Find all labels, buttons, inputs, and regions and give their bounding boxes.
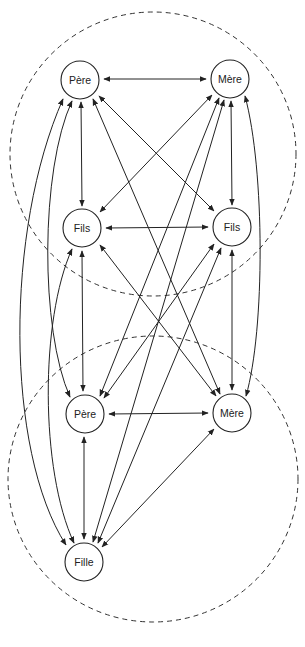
edge-mere2-fille bbox=[102, 429, 214, 547]
edge-fils1-fille bbox=[48, 249, 74, 543]
node-fils-right: Fils bbox=[213, 208, 251, 246]
family-relations-diagram: Père Mère Fils Fils Père Mère Fille bbox=[0, 0, 305, 647]
edge-fils1-mere2 bbox=[100, 245, 216, 396]
edge-fils1-fils2 bbox=[106, 227, 208, 228]
edge-fils2-fille bbox=[98, 248, 221, 543]
nodes: Père Mère Fils Fils Père Mère Fille bbox=[61, 60, 251, 581]
node-label: Fils bbox=[224, 221, 240, 233]
edge-pere1-fils1 bbox=[81, 102, 82, 206]
node-label: Père bbox=[69, 74, 91, 86]
edge-fils2-pere2 bbox=[104, 244, 214, 398]
edge-pere1-fille bbox=[20, 99, 66, 545]
edges bbox=[20, 79, 260, 547]
node-pere-top: Père bbox=[61, 61, 99, 99]
node-label: Fille bbox=[74, 556, 93, 568]
node-mere-top: Mère bbox=[211, 60, 249, 98]
edge-mere1-fils2 bbox=[231, 101, 232, 205]
edge-mere1-mere2 bbox=[245, 96, 260, 396]
edge-fils1-pere2 bbox=[82, 251, 83, 391]
node-label: Père bbox=[74, 408, 96, 420]
group-boundary-origin-family bbox=[10, 12, 296, 296]
node-label: Fils bbox=[74, 222, 90, 234]
node-fils-left: Fils bbox=[63, 209, 101, 247]
node-mere-bottom: Mère bbox=[213, 394, 251, 432]
node-label: Mère bbox=[218, 73, 242, 85]
edge-pere1-pere2 bbox=[48, 101, 72, 397]
node-pere-bottom: Père bbox=[66, 395, 104, 433]
group-boundary-procreation-family bbox=[8, 336, 298, 622]
node-label: Mère bbox=[220, 407, 244, 419]
node-fille: Fille bbox=[65, 543, 103, 581]
edge-pere2-mere2 bbox=[109, 413, 208, 414]
